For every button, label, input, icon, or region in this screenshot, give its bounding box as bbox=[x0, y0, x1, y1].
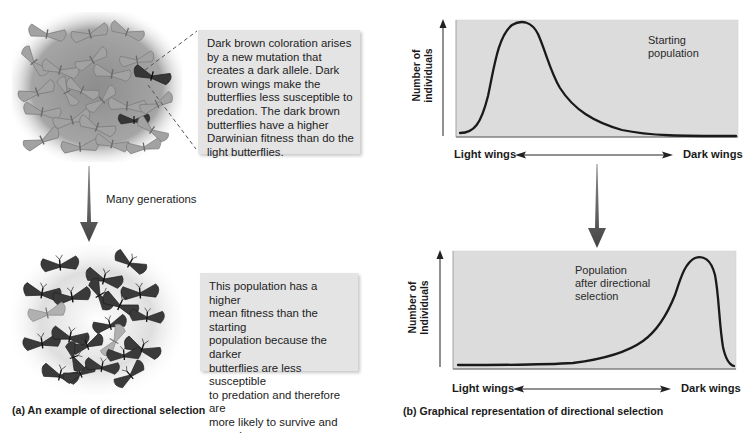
caption-panel-b: (b) Graphical representation of directio… bbox=[403, 405, 663, 417]
bottom-chart-xlabel-left: Light wings bbox=[452, 382, 514, 394]
top-chart-xlabel-right: Dark wings bbox=[683, 148, 743, 160]
bottom-chart-x-axis-arrow bbox=[513, 383, 671, 395]
caption-panel-a: (a) An example of directional selection bbox=[12, 404, 205, 416]
top-chart-x-axis-arrow bbox=[515, 149, 673, 161]
top-chart-ylabel: Number of individuals bbox=[411, 44, 434, 108]
many-generations-label: Many generations bbox=[106, 193, 197, 205]
mutation-explanation-note: Dark brown coloration arises by a new mu… bbox=[198, 30, 360, 154]
bottom-chart-xlabel-right: Dark wings bbox=[681, 382, 741, 394]
bottom-chart-annotation: Population after directional selection bbox=[575, 264, 650, 303]
top-chart-annotation: Starting population bbox=[648, 34, 699, 60]
top-chart-xlabel-left: Light wings bbox=[454, 148, 516, 160]
final-population-illustration bbox=[12, 245, 182, 395]
bottom-chart-ylabel-line2: Individuals bbox=[418, 276, 430, 340]
generations-arrow-icon bbox=[79, 166, 99, 242]
fitness-explanation-note: This population has a higher mean fitnes… bbox=[200, 273, 358, 371]
bottom-chart-ylabel-line1: Number of bbox=[407, 276, 419, 340]
selection-arrow-icon bbox=[587, 164, 607, 248]
top-chart-ylabel-line2: individuals bbox=[422, 44, 434, 108]
bottom-chart-ylabel: Number of Individuals bbox=[407, 276, 430, 340]
top-chart-ylabel-line1: Number of bbox=[411, 44, 423, 108]
